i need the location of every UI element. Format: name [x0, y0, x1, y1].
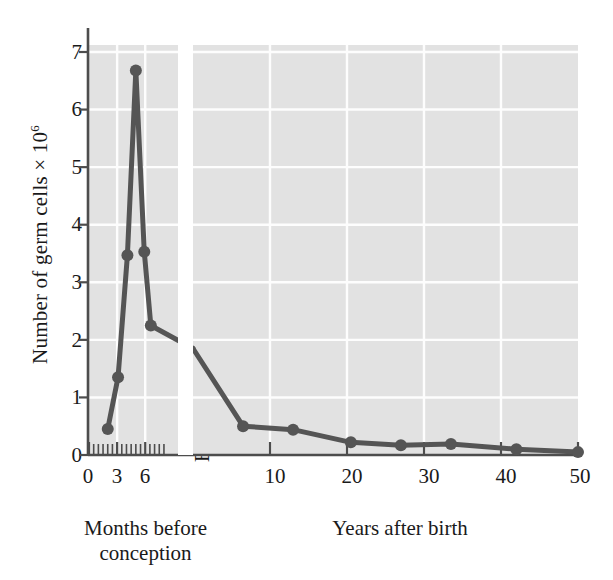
data-point-years [445, 438, 457, 450]
data-point-years [345, 436, 357, 448]
panel-gap-mask [178, 43, 193, 455]
data-point-months [130, 64, 142, 76]
data-point-years [510, 443, 522, 455]
data-point-years [287, 424, 299, 436]
data-point-months [112, 371, 124, 383]
plot-canvas [0, 0, 613, 580]
germ-cell-chart-figure: Number of germ cells × 106 0 1 2 3 4 5 6… [0, 0, 613, 580]
data-point-years [237, 420, 249, 432]
data-point-years [395, 439, 407, 451]
data-point-months [102, 423, 114, 435]
plot-background-years [193, 45, 578, 455]
data-point-years [572, 446, 584, 458]
data-point-months [138, 246, 150, 258]
data-point-months [121, 249, 133, 261]
